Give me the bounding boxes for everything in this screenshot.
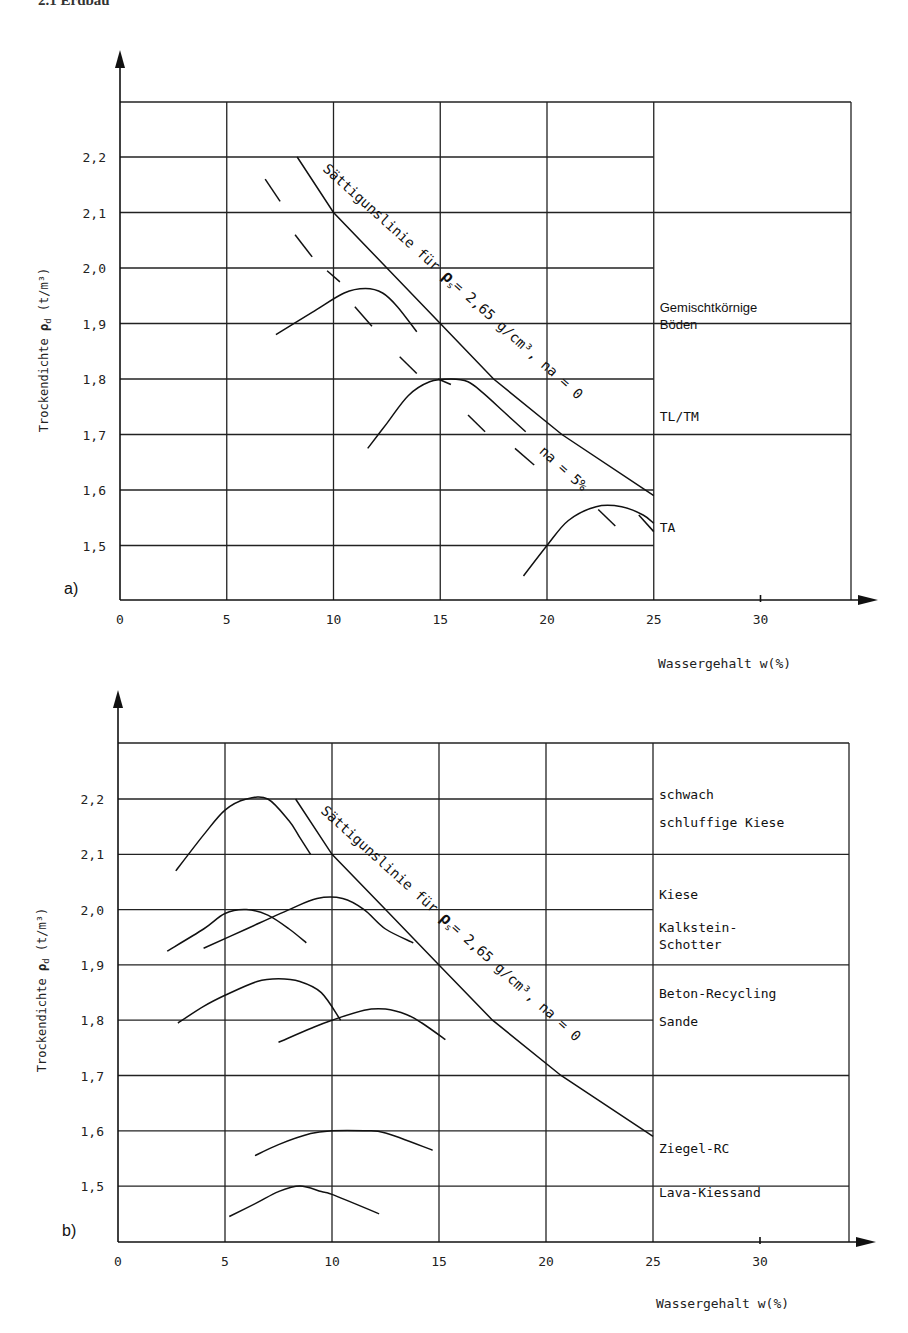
- y-tick-label: 1,5: [81, 1179, 104, 1194]
- soil-type-labels: schwachschluffige KieseKieseKalkstein-Sc…: [659, 787, 784, 1200]
- y-tick-label: 2,1: [83, 206, 106, 221]
- tick-labels: 0510152025301,51,61,71,81,92,02,12,2: [83, 150, 769, 627]
- grid-lines: [120, 102, 851, 600]
- x-tick-label: 25: [646, 612, 662, 627]
- y-tick-label: 2,2: [83, 150, 106, 165]
- soil-type-label: Schotter: [659, 937, 722, 952]
- proctor-curve-ta: [524, 505, 654, 576]
- soil-type-labels: GemischtkörnigeBödenTL/TMTA: [660, 300, 758, 534]
- y-tick-label: 1,9: [83, 317, 106, 332]
- soil-type-label: Kiese: [659, 887, 698, 902]
- soil-type-label: schwach: [659, 787, 714, 802]
- chart-a-proctor-mixed-soils: 0510152025301,51,61,71,81,92,02,12,2Wass…: [37, 50, 878, 671]
- proctor-curves: [167, 797, 445, 1217]
- y-tick-label: 1,8: [81, 1013, 104, 1028]
- proctor-curve-lava-kiessand: [229, 1186, 379, 1216]
- panel-label: a): [64, 580, 78, 597]
- soil-type-label: TL/TM: [660, 409, 699, 424]
- x-tick-label: 15: [431, 1254, 447, 1269]
- y-tick-label: 1,7: [83, 428, 106, 443]
- soil-type-label: Beton-Recycling: [659, 986, 776, 1001]
- soil-type-label: Gemischtkörnige: [660, 300, 758, 315]
- y-tick-label: 2,2: [81, 792, 104, 807]
- y-tick-label: 2,0: [81, 903, 104, 918]
- soil-type-label: Ziegel-RC: [659, 1141, 729, 1156]
- proctor-curve-ziegel-rc: [255, 1130, 433, 1155]
- x-tick-label: 25: [645, 1254, 661, 1269]
- x-tick-label: 0: [116, 612, 124, 627]
- proctor-curve-tl-tm: [368, 379, 526, 448]
- air-void-5-percent-line: [265, 179, 654, 531]
- y-tick-label: 1,6: [81, 1124, 104, 1139]
- proctor-curve-kiese: [167, 910, 306, 952]
- y-axis-arrow-icon: [113, 690, 123, 708]
- saturation-line-label: Sättigunslinie für ρs= 2,65 g/cm³, na = …: [317, 801, 586, 1046]
- panel-label: b): [62, 1222, 76, 1239]
- y-tick-label: 2,1: [81, 847, 104, 862]
- y-tick-label: 1,6: [83, 483, 106, 498]
- x-tick-label: 5: [221, 1254, 229, 1269]
- air-void-label: na = 5%: [536, 443, 591, 495]
- proctor-curve-beton-recycling: [178, 979, 341, 1023]
- soil-type-label: TA: [660, 520, 676, 535]
- x-tick-label: 15: [432, 612, 448, 627]
- soil-type-label: schluffige Kiese: [659, 815, 784, 830]
- saturation-line: [296, 799, 653, 1136]
- saturation-line: [297, 157, 654, 496]
- y-tick-label: 1,5: [83, 539, 106, 554]
- proctor-curve-sande: [279, 1009, 446, 1043]
- y-tick-label: 1,9: [81, 958, 104, 973]
- x-axis-arrow-icon: [858, 595, 878, 605]
- soil-type-label: Sande: [659, 1014, 698, 1029]
- proctor-curve-gemischtk-rnige-b-den: [276, 289, 417, 335]
- x-tick-label: 0: [114, 1254, 122, 1269]
- x-tick-label: 30: [752, 1254, 768, 1269]
- x-tick-label: 5: [223, 612, 231, 627]
- x-tick-label: 10: [324, 1254, 340, 1269]
- y-axis-label: Trockendichte ρd (t/m³): [35, 908, 51, 1072]
- y-tick-label: 1,8: [83, 372, 106, 387]
- y-axis-label: Trockendichte ρd (t/m³): [37, 268, 53, 432]
- soil-type-label: Lava-Kiessand: [659, 1185, 761, 1200]
- y-axis-arrow-icon: [115, 50, 125, 68]
- x-tick-label: 20: [539, 612, 555, 627]
- x-tick-label: 30: [753, 612, 769, 627]
- x-axis-label: Wassergehalt w(%): [656, 1296, 789, 1311]
- x-axis-label: Wassergehalt w(%): [658, 656, 791, 671]
- soil-type-label: Böden: [660, 317, 698, 332]
- x-axis-arrow-icon: [856, 1237, 876, 1247]
- proctor-curves: [276, 289, 654, 577]
- y-tick-label: 2,0: [83, 261, 106, 276]
- y-tick-label: 1,7: [81, 1069, 104, 1084]
- soil-type-label: Kalkstein-: [659, 920, 737, 935]
- x-tick-label: 10: [326, 612, 342, 627]
- proctor-curve-schwach-schluffige-kiese: [176, 797, 311, 871]
- compaction-figure: 0510152025301,51,61,71,81,92,02,12,2Wass…: [0, 0, 908, 1333]
- chart-b-proctor-gravel-recycling: 0510152025301,51,61,71,81,92,02,12,2Wass…: [35, 690, 876, 1311]
- x-tick-label: 20: [538, 1254, 554, 1269]
